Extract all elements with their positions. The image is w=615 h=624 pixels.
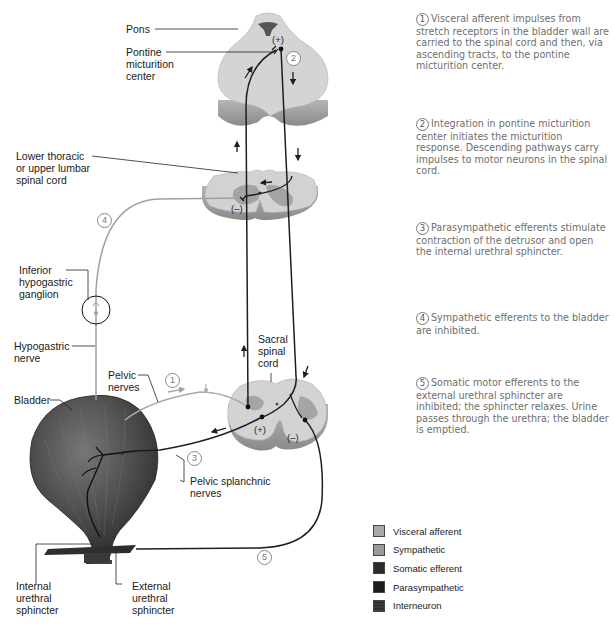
sign-pons-plus: (+): [272, 34, 284, 45]
label-bladder: Bladder: [14, 394, 50, 406]
legend-item-visceral-afferent: Visceral afferent: [373, 522, 464, 541]
marker-2: 2: [286, 51, 301, 66]
legend-label: Parasympathetic: [393, 582, 464, 593]
legend-label: Interneuron: [393, 600, 442, 611]
step-4-number: 4: [416, 312, 429, 325]
legend-item-somatic-efferent: Somatic efferent: [373, 559, 464, 578]
label-internal-sphincter: Internal urethral sphincter: [16, 580, 59, 616]
marker-5: 5: [257, 550, 272, 565]
label-lower-thoracic: Lower thoracic or upper lumbar spinal co…: [16, 150, 90, 186]
step-5-text: Somatic motor efferents to the external …: [416, 377, 609, 435]
step-1-number: 1: [416, 13, 429, 26]
legend: Visceral afferent Sympathetic Somatic ef…: [373, 522, 464, 615]
label-sacral-cord: Sacral spinal cord: [258, 333, 288, 369]
label-hypogastric-nerve: Hypogastric nerve: [14, 340, 69, 364]
label-external-sphincter: External urethral sphincter: [132, 580, 175, 616]
step-3: 3Parasympathetic efferents stimulate con…: [416, 222, 611, 258]
urethra: [84, 553, 110, 563]
step-3-number: 3: [416, 222, 429, 235]
legend-item-sympathetic: Sympathetic: [373, 541, 464, 560]
marker-1: 1: [165, 373, 180, 388]
step-4: 4Sympathetic efferents to the bladder ar…: [416, 312, 611, 336]
label-pelvic-splanchnic: Pelvic splanchnic nerves: [190, 475, 271, 499]
legend-swatch: [373, 581, 385, 593]
legend-label: Somatic efferent: [393, 563, 462, 574]
label-pons: Pons: [126, 23, 150, 35]
label-inferior-ganglion: Inferior hypogastric ganglion: [19, 264, 73, 300]
step-2-text: Integration in pontine micturition cente…: [416, 118, 607, 176]
marker-3: 3: [187, 451, 202, 466]
sign-lumbar-minus: (–): [231, 203, 243, 214]
sign-sacral-plus: (+): [254, 424, 266, 435]
step-2: 2Integration in pontine micturition cent…: [416, 118, 611, 177]
legend-item-parasympathetic: Parasympathetic: [373, 578, 464, 597]
bladder: [30, 395, 158, 564]
step-2-number: 2: [416, 118, 429, 131]
step-1-text: Visceral afferent impulses from stretch …: [416, 13, 609, 71]
step-5-number: 5: [416, 377, 429, 390]
marker-4: 4: [97, 213, 112, 228]
legend-swatch: [373, 544, 385, 556]
legend-label: Sympathetic: [393, 544, 445, 555]
legend-swatch: [373, 600, 385, 612]
sign-sacral-minus: (–): [287, 432, 299, 443]
legend-label: Visceral afferent: [393, 526, 461, 537]
step-5: 5Somatic motor efferents to the external…: [416, 377, 611, 436]
sacral-cord-section: [228, 379, 328, 451]
step-4-text: Sympathetic efferents to the bladder are…: [416, 312, 609, 336]
pons-section: [218, 13, 328, 126]
label-pelvic-nerves: Pelvic nerves: [108, 369, 140, 393]
step-1: 1Visceral afferent impulses from stretch…: [416, 13, 611, 72]
label-pontine-center: Pontine micturition center: [126, 46, 174, 82]
legend-item-interneuron: Interneuron: [373, 596, 464, 615]
step-3-text: Parasympathetic efferents stimulate cont…: [416, 222, 606, 257]
legend-swatch: [373, 562, 385, 574]
legend-swatch: [373, 525, 385, 537]
lumbar-cord-section: [202, 170, 318, 220]
